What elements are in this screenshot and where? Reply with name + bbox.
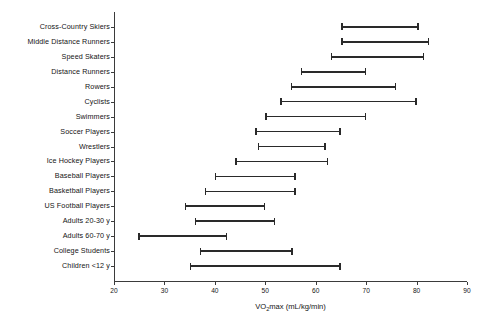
range-bar-high-cap [339,128,341,135]
category-label: Baseball Players [0,172,110,180]
category-label: US Football Players [0,202,110,210]
category-label: Adults 60-70 y [0,232,110,240]
range-bar [235,161,328,163]
range-bar-high-cap [324,143,326,150]
range-bar-low-cap [280,98,282,105]
y-axis-tick [111,176,114,177]
category-label: Soccer Players [0,128,110,136]
range-bar [331,56,424,58]
category-label: Speed Skaters [0,53,110,61]
range-bar-low-cap [341,38,343,45]
range-bar-low-cap [291,83,293,90]
category-label: Basketball Players [0,187,110,195]
range-bar-high-cap [339,263,341,270]
range-bar-high-cap [417,23,419,30]
category-label: Distance Runners [0,68,110,76]
x-axis-title: VO2max (mL/kg/min) [114,302,467,312]
x-axis-title-subscript: 2 [266,306,269,312]
range-bar [341,26,419,28]
range-bar [301,71,367,73]
range-bar [138,235,227,237]
range-bar-low-cap [301,68,303,75]
x-axis-line [114,281,467,282]
range-bar-high-cap [327,158,329,165]
range-bar-low-cap [205,188,207,195]
vo2max-range-chart: Cross-Country SkiersMiddle Distance Runn… [0,0,482,329]
category-label: Wrestlers [0,143,110,151]
range-bar-low-cap [200,248,202,255]
x-axis-tick-label: 80 [404,287,430,295]
y-axis-tick [111,147,114,148]
range-bar [185,205,266,207]
range-bar-low-cap [235,158,237,165]
range-bar [258,146,326,148]
range-bar-high-cap [226,233,228,240]
x-axis-title-post: max (mL/kg/min) [269,302,326,311]
range-bar-high-cap [294,188,296,195]
range-bar [205,191,296,193]
range-bar-high-cap [365,113,367,120]
x-axis-tick [467,282,468,285]
range-bar-high-cap [294,173,296,180]
range-bar-low-cap [255,128,257,135]
range-bar-high-cap [423,53,425,60]
x-axis-tick-label: 70 [353,287,379,295]
x-axis-tick-label: 30 [151,287,177,295]
range-bar-high-cap [274,218,276,225]
y-axis-tick [111,266,114,267]
range-bar [190,265,341,267]
x-axis-tick [114,282,115,285]
range-bar [200,250,293,252]
x-axis-tick [417,282,418,285]
range-bar-high-cap [291,248,293,255]
y-axis-tick [111,117,114,118]
range-bar-low-cap [341,23,343,30]
range-bar [255,131,341,133]
range-bar [195,220,276,222]
range-bar-low-cap [138,233,140,240]
x-axis-tick [215,282,216,285]
x-axis-tick-label: 90 [454,287,480,295]
x-axis-tick-label: 50 [252,287,278,295]
category-label: College Students [0,247,110,255]
category-label: Swimmers [0,113,110,121]
y-axis-tick [111,102,114,103]
category-axis-labels: Cross-Country SkiersMiddle Distance Runn… [0,12,110,281]
plot-area [114,12,467,281]
range-bar-high-cap [365,68,367,75]
category-label: Adults 20-30 y [0,217,110,225]
range-bar-low-cap [331,53,333,60]
y-axis-tick [111,161,114,162]
x-axis-tick-label: 40 [202,287,228,295]
y-axis-tick [111,42,114,43]
y-axis-tick [111,87,114,88]
y-axis-tick [111,251,114,252]
y-axis-tick [111,72,114,73]
range-bar-high-cap [264,203,266,210]
y-axis-tick [111,206,114,207]
range-bar [280,101,416,103]
range-bar-low-cap [185,203,187,210]
y-axis-tick [111,221,114,222]
range-bar [215,176,296,178]
category-label: Cyclists [0,98,110,106]
x-axis-tick [164,282,165,285]
range-bar [265,116,366,118]
x-axis-tick [316,282,317,285]
y-axis-tick [111,57,114,58]
category-label: Rowers [0,83,110,91]
category-label: Cross-Country Skiers [0,23,110,31]
x-axis-tick-label: 20 [101,287,127,295]
range-bar [341,41,429,43]
range-bar-low-cap [265,113,267,120]
y-axis-tick [111,27,114,28]
x-axis-tick-label: 60 [303,287,329,295]
y-axis-tick [111,191,114,192]
category-label: Middle Distance Runners [0,38,110,46]
range-bar [291,86,397,88]
category-label: Ice Hockey Players [0,157,110,165]
range-bar-low-cap [215,173,217,180]
range-bar-low-cap [195,218,197,225]
y-axis-tick [111,132,114,133]
range-bar-high-cap [428,38,430,45]
